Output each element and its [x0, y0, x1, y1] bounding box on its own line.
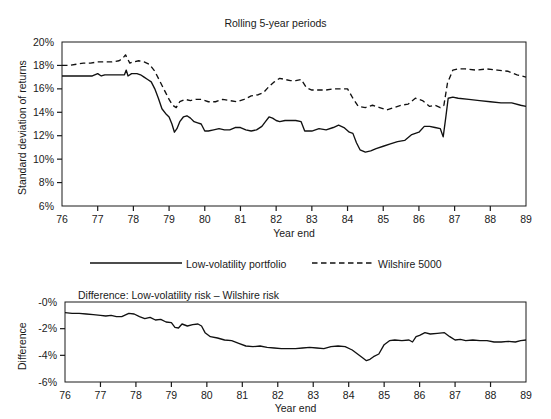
svg-text:84: 84 [343, 389, 355, 401]
svg-text:77: 77 [92, 213, 104, 225]
svg-text:10%: 10% [33, 153, 54, 165]
top-chart-plot: 20%18%16%14%12%10%8%6%767778798081828384… [0, 0, 551, 260]
svg-text:20%: 20% [33, 36, 54, 48]
svg-text:89: 89 [520, 213, 532, 225]
svg-text:79: 79 [163, 213, 175, 225]
svg-text:86: 86 [414, 389, 426, 401]
svg-text:85: 85 [378, 389, 390, 401]
svg-text:77: 77 [95, 389, 107, 401]
svg-text:14%: 14% [33, 106, 54, 118]
svg-text:83: 83 [306, 213, 318, 225]
svg-text:87: 87 [449, 389, 461, 401]
svg-text:82: 82 [272, 389, 284, 401]
svg-text:78: 78 [130, 389, 142, 401]
svg-text:78: 78 [128, 213, 140, 225]
svg-text:-4%: -4% [38, 349, 57, 361]
svg-text:-0%: -0% [38, 296, 57, 308]
svg-text:-2%: -2% [38, 322, 57, 334]
legend-label-wilshire-5000: Wilshire 5000 [378, 258, 442, 270]
svg-text:18%: 18% [33, 59, 54, 71]
svg-text:85: 85 [377, 213, 389, 225]
svg-text:8%: 8% [39, 176, 54, 188]
svg-text:-6%: -6% [38, 376, 57, 388]
figure-root: Rolling 5-year periods Standard deviatio… [0, 0, 551, 419]
legend-label-low-volatility-portfolio: Low-volatility portfolio [186, 258, 286, 270]
svg-text:12%: 12% [33, 129, 54, 141]
bottom-chart-title: Difference: Low-volatility risk – Wilshi… [78, 289, 279, 301]
svg-text:88: 88 [484, 213, 496, 225]
svg-text:76: 76 [59, 389, 71, 401]
svg-text:6%: 6% [39, 200, 54, 212]
svg-text:80: 80 [201, 389, 213, 401]
svg-text:89: 89 [520, 389, 532, 401]
svg-text:80: 80 [199, 213, 211, 225]
bottom-chart-x-axis-label: Year end [65, 402, 526, 414]
bottom-chart-y-axis-label: Difference [16, 322, 28, 370]
svg-text:76: 76 [56, 213, 68, 225]
svg-text:79: 79 [166, 389, 178, 401]
svg-text:84: 84 [342, 213, 354, 225]
svg-text:82: 82 [270, 213, 282, 225]
svg-text:88: 88 [485, 389, 497, 401]
svg-text:81: 81 [236, 389, 248, 401]
svg-text:83: 83 [307, 389, 319, 401]
svg-text:81: 81 [235, 213, 247, 225]
svg-text:86: 86 [413, 213, 425, 225]
svg-text:16%: 16% [33, 82, 54, 94]
svg-text:87: 87 [449, 213, 461, 225]
